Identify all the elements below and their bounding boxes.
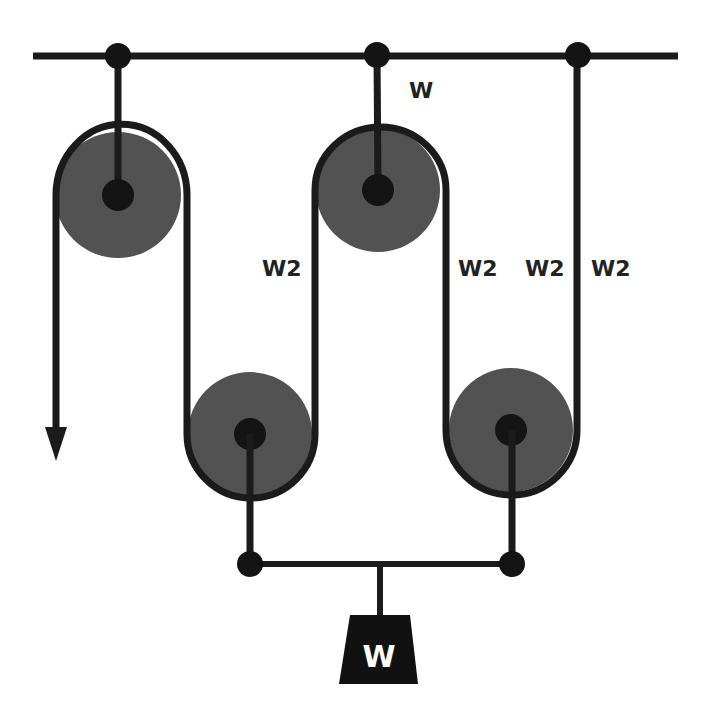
anchor-1-dot bbox=[105, 43, 131, 69]
label-w2-left: W2 bbox=[262, 256, 302, 281]
label-w2-right-inner: W2 bbox=[525, 256, 565, 281]
label-top-hanger: W bbox=[409, 78, 433, 103]
pulley-diagram: W W W2 W2 W2 W2 bbox=[0, 0, 715, 716]
fixed-pulley-2-hub bbox=[362, 174, 394, 206]
pull-arrow-icon bbox=[45, 427, 67, 461]
label-w2-right-outer: W2 bbox=[591, 256, 631, 281]
hanger-2 bbox=[377, 55, 378, 190]
spreader-right-dot bbox=[499, 551, 525, 577]
label-w2-middle: W2 bbox=[458, 256, 498, 281]
fixed-pulley-1-hub bbox=[102, 179, 134, 211]
anchor-3-dot bbox=[565, 42, 591, 68]
anchor-2-dot bbox=[364, 42, 390, 68]
weight-label: W bbox=[362, 639, 395, 674]
spreader-left-dot bbox=[237, 551, 263, 577]
